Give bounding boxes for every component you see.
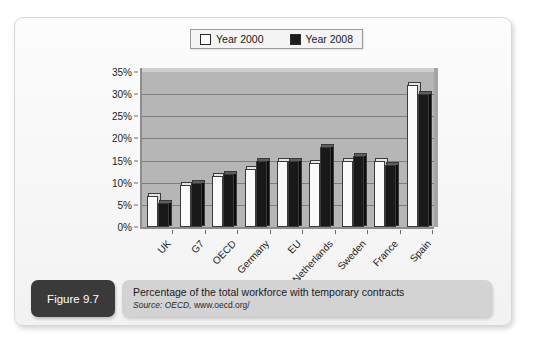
bar bbox=[418, 94, 429, 227]
bar-top-cap bbox=[224, 171, 237, 174]
bar-side bbox=[429, 91, 432, 226]
bar-chart: 0%5%10%15%20%25%30%35% UKG7OECDGermanyEU… bbox=[98, 68, 438, 233]
bar bbox=[277, 161, 288, 227]
y-tick-label: 35% bbox=[112, 67, 132, 78]
bar bbox=[309, 163, 320, 227]
y-tick-label: 25% bbox=[112, 111, 132, 122]
bar bbox=[223, 174, 234, 227]
y-tick-mark bbox=[134, 94, 138, 95]
bar-top-cap bbox=[257, 158, 270, 161]
y-tick-mark bbox=[134, 182, 138, 183]
bar-face bbox=[147, 196, 158, 227]
x-tick-label: OECD bbox=[210, 238, 238, 267]
y-tick-label: 0% bbox=[118, 222, 132, 233]
x-tick-mark bbox=[335, 230, 336, 234]
bar bbox=[320, 147, 331, 227]
figure-caption-text: Percentage of the total workforce with t… bbox=[133, 286, 481, 299]
y-tick-mark bbox=[134, 227, 138, 228]
bar-top-cap bbox=[354, 153, 367, 156]
bar-face bbox=[353, 156, 364, 227]
x-tick-label: Sweden bbox=[335, 238, 368, 272]
bar-group bbox=[239, 72, 271, 227]
y-tick-label: 20% bbox=[112, 133, 132, 144]
bar-side bbox=[234, 171, 237, 226]
bar-top-cap bbox=[408, 82, 421, 85]
bar-face bbox=[309, 163, 320, 227]
bar-group bbox=[207, 72, 239, 227]
x-tick-mark bbox=[432, 230, 433, 234]
bars-layer bbox=[142, 72, 434, 227]
legend-label-year-2008: Year 2008 bbox=[306, 33, 354, 45]
x-tick-label: UK bbox=[156, 238, 174, 256]
y-tick-mark bbox=[134, 138, 138, 139]
bar-top-cap bbox=[386, 162, 399, 165]
bar-face bbox=[245, 169, 256, 227]
bar-face bbox=[158, 203, 169, 227]
x-tick-mark bbox=[205, 230, 206, 234]
bar bbox=[158, 203, 169, 227]
bar-face bbox=[407, 85, 418, 227]
bar-top-cap bbox=[192, 180, 205, 183]
y-tick-mark bbox=[134, 204, 138, 205]
bar-face bbox=[223, 174, 234, 227]
bar-face bbox=[180, 185, 191, 227]
figure-caption-box: Percentage of the total workforce with t… bbox=[122, 280, 492, 317]
bar-side bbox=[299, 158, 302, 226]
bar-top-cap bbox=[419, 91, 432, 94]
bar-group bbox=[174, 72, 206, 227]
bar bbox=[180, 185, 191, 227]
x-tick-mark bbox=[400, 230, 401, 234]
plot-area bbox=[140, 72, 434, 229]
bar bbox=[256, 161, 267, 227]
y-tick-label: 5% bbox=[118, 199, 132, 210]
figure-source-url: www.oecd.org/ bbox=[194, 300, 250, 310]
bar-side bbox=[396, 162, 399, 226]
bar-face bbox=[374, 161, 385, 227]
bar bbox=[147, 196, 158, 227]
x-tick-label: Spain bbox=[407, 238, 432, 264]
bar-top-cap bbox=[289, 158, 302, 161]
bar-face bbox=[418, 94, 429, 227]
bar-side bbox=[202, 180, 205, 226]
x-tick-mark bbox=[270, 230, 271, 234]
bar-top-cap bbox=[148, 193, 161, 196]
y-tick-label: 30% bbox=[112, 89, 132, 100]
y-tick-mark bbox=[134, 116, 138, 117]
bar-face bbox=[288, 161, 299, 227]
bar bbox=[385, 165, 396, 227]
bar bbox=[374, 161, 385, 227]
bar-group bbox=[337, 72, 369, 227]
bar bbox=[288, 161, 299, 227]
x-tick-label: Germany bbox=[234, 238, 270, 276]
chart-legend: Year 2000 Year 2008 bbox=[190, 29, 363, 49]
bar-group bbox=[369, 72, 401, 227]
bar bbox=[191, 183, 202, 227]
figure-source-line: Source: OECD, www.oecd.org/ bbox=[133, 300, 481, 310]
legend-swatch-year-2008 bbox=[290, 34, 301, 45]
legend-item-year-2000: Year 2000 bbox=[200, 33, 264, 45]
y-tick-label: 15% bbox=[112, 155, 132, 166]
bar-group bbox=[304, 72, 336, 227]
bar-side bbox=[331, 144, 334, 226]
bar-group bbox=[402, 72, 434, 227]
bar-face bbox=[342, 161, 353, 227]
bar-face bbox=[191, 183, 202, 227]
x-tick-mark bbox=[172, 230, 173, 234]
figure-source-prefix: Source: OECD, bbox=[133, 300, 192, 310]
x-tick-label: EU bbox=[286, 238, 304, 256]
legend-label-year-2000: Year 2000 bbox=[216, 33, 264, 45]
bar-group bbox=[142, 72, 174, 227]
figure-number-tag: Figure 9.7 bbox=[31, 280, 115, 317]
x-tick-mark bbox=[237, 230, 238, 234]
bar-top-cap bbox=[375, 158, 388, 161]
x-tick-label: G7 bbox=[189, 238, 206, 255]
y-tick-mark bbox=[134, 160, 138, 161]
x-tick-label: France bbox=[371, 238, 400, 268]
bar-side bbox=[267, 158, 270, 226]
y-tick-mark bbox=[134, 72, 138, 73]
figure-caption-row: Figure 9.7 Percentage of the total workf… bbox=[31, 280, 492, 317]
bar-face bbox=[277, 161, 288, 227]
bar-side bbox=[364, 153, 367, 226]
bar bbox=[212, 176, 223, 227]
y-axis: 0%5%10%15%20%25%30%35% bbox=[98, 68, 138, 223]
